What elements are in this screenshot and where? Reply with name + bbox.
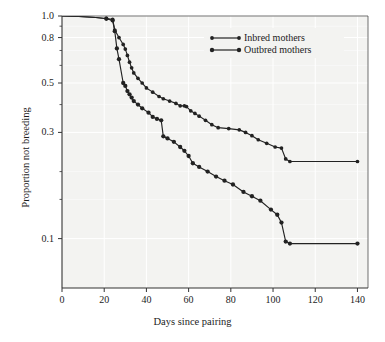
data-point — [155, 117, 159, 121]
data-point — [140, 106, 144, 110]
data-point — [250, 194, 254, 198]
data-point — [214, 174, 218, 178]
figure-container: Inbred mothers Outbred mothers Proportio… — [0, 0, 385, 342]
data-point — [104, 17, 108, 21]
data-point — [123, 47, 127, 51]
data-point — [128, 60, 132, 64]
x-tick-label: 120 — [295, 294, 335, 305]
data-point — [185, 105, 189, 109]
x-tick-label: 40 — [126, 294, 166, 305]
data-point — [288, 241, 292, 245]
data-point — [161, 134, 165, 138]
data-point — [273, 145, 277, 149]
data-point — [182, 149, 186, 153]
legend-label-outbred: Outbred mothers — [244, 44, 312, 55]
data-point — [284, 239, 288, 243]
data-point — [210, 123, 214, 127]
data-point — [132, 71, 136, 75]
data-point — [132, 99, 136, 103]
data-point — [145, 86, 149, 90]
data-point — [115, 46, 119, 50]
data-point — [197, 165, 201, 169]
data-point — [193, 112, 197, 116]
x-tick-label: 20 — [84, 294, 124, 305]
data-point — [269, 207, 273, 211]
data-point — [189, 109, 193, 113]
data-point — [231, 182, 235, 186]
data-point — [280, 146, 284, 150]
data-point — [241, 190, 245, 194]
data-point — [178, 104, 182, 108]
y-tick-label: 1.0 — [20, 10, 54, 21]
data-point — [205, 169, 209, 173]
data-point — [356, 160, 360, 164]
y-tick-label: 0.3 — [20, 126, 54, 137]
data-point — [165, 136, 169, 140]
data-point — [123, 84, 127, 88]
data-point — [174, 102, 178, 106]
x-tick-label: 60 — [169, 294, 209, 305]
data-point — [157, 95, 161, 99]
data-point — [172, 140, 176, 144]
data-point — [151, 115, 155, 119]
y-tick-label: 0.8 — [20, 32, 54, 43]
data-point — [161, 97, 165, 101]
x-tick-label: 80 — [211, 294, 251, 305]
x-axis-label: Days since pairing — [0, 316, 385, 327]
data-point — [168, 99, 172, 103]
data-point — [136, 102, 140, 106]
data-point — [216, 126, 220, 130]
data-point — [284, 157, 288, 161]
data-point — [250, 134, 254, 138]
data-point — [222, 179, 226, 183]
data-point — [355, 241, 359, 245]
data-point — [121, 43, 125, 47]
data-point — [204, 118, 208, 122]
data-point — [113, 29, 117, 33]
data-point — [265, 141, 269, 145]
data-point — [237, 128, 241, 132]
chart-canvas — [0, 0, 385, 342]
data-point — [126, 54, 130, 58]
legend-marker-inbred-end — [237, 36, 241, 40]
data-point — [117, 57, 121, 61]
data-point — [227, 127, 231, 131]
x-tick-label: 0 — [42, 294, 82, 305]
y-axis-label: Proportion not breeding — [20, 78, 31, 238]
x-tick-label: 100 — [253, 294, 293, 305]
y-tick-label: 0.1 — [20, 233, 54, 244]
data-point — [117, 36, 121, 40]
legend-marker-outbred-start — [210, 48, 214, 52]
data-point — [191, 161, 195, 165]
data-point — [197, 114, 201, 118]
data-point — [146, 111, 150, 115]
data-point — [130, 66, 134, 70]
data-point — [186, 154, 190, 158]
data-point — [244, 131, 248, 135]
data-point — [159, 118, 163, 122]
data-point — [140, 81, 144, 85]
legend-marker-inbred-start — [210, 36, 214, 40]
data-point — [256, 138, 260, 142]
data-point — [178, 145, 182, 149]
data-point — [288, 160, 292, 164]
data-point — [136, 76, 140, 80]
legend-marker-outbred-end — [237, 48, 241, 52]
y-tick-label: 0.5 — [20, 77, 54, 88]
legend-label-inbred: Inbred mothers — [244, 32, 305, 43]
data-point — [111, 18, 115, 22]
data-point — [279, 220, 283, 224]
data-point — [275, 213, 279, 217]
data-point — [258, 199, 262, 203]
data-point — [151, 90, 155, 94]
x-tick-label: 140 — [337, 294, 377, 305]
